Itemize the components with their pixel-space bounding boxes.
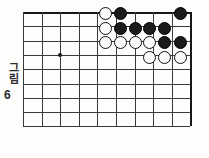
board-star-point	[58, 53, 62, 57]
board-hline	[23, 98, 190, 99]
black-stone	[174, 36, 187, 49]
black-stone	[129, 22, 142, 35]
white-stone	[114, 36, 127, 49]
board-hline	[23, 112, 190, 113]
board-vline	[23, 12, 24, 126]
white-stone	[158, 51, 171, 64]
white-stone	[143, 36, 156, 49]
black-stone	[143, 22, 156, 35]
go-board	[0, 0, 209, 158]
black-stone	[114, 7, 127, 20]
go-figure: 그림 6	[0, 0, 209, 158]
board-hline	[23, 84, 190, 85]
board-hline	[23, 126, 190, 127]
black-stone	[174, 7, 187, 20]
white-stone	[129, 36, 142, 49]
black-stone	[114, 22, 127, 35]
white-stone	[143, 51, 156, 64]
white-stone	[99, 36, 112, 49]
board-hline	[23, 69, 190, 70]
board-vline	[42, 12, 43, 126]
white-stone	[99, 22, 112, 35]
board-vline	[60, 12, 61, 126]
white-stone	[174, 51, 187, 64]
board-vline	[190, 12, 192, 126]
board-vline	[172, 12, 173, 126]
white-stone	[99, 7, 112, 20]
board-vline	[79, 12, 80, 126]
black-stone	[158, 36, 171, 49]
black-stone	[158, 22, 171, 35]
